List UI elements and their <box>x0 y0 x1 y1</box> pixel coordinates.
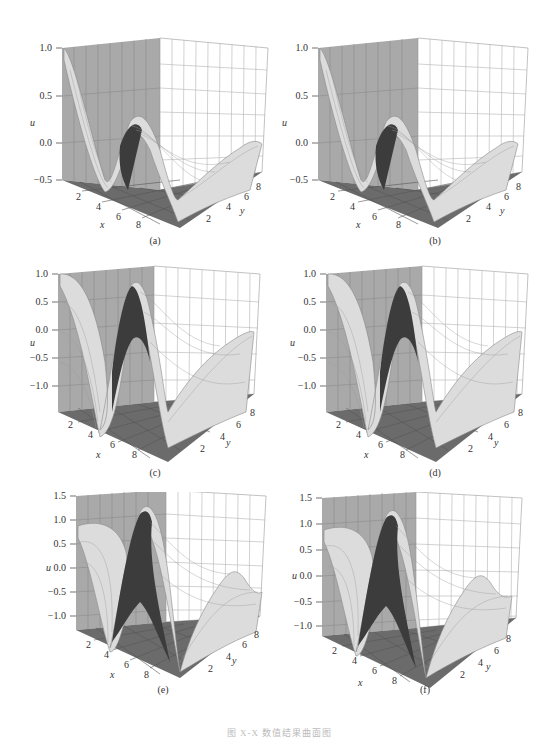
svg-text:4: 4 <box>350 201 355 212</box>
svg-text:6: 6 <box>236 419 241 430</box>
subfigure-label-a: (a) <box>140 235 170 246</box>
svg-text:6: 6 <box>372 211 377 222</box>
svg-text:0.5: 0.5 <box>36 296 49 307</box>
svg-text:2: 2 <box>86 639 91 650</box>
svg-text:2: 2 <box>208 663 213 674</box>
svg-text:1.0: 1.0 <box>40 42 53 53</box>
svg-text:0.5: 0.5 <box>300 544 313 555</box>
svg-text:6: 6 <box>494 645 499 656</box>
svg-text:6: 6 <box>378 439 383 450</box>
svg-text:y: y <box>231 655 237 666</box>
svg-text:0.0: 0.0 <box>54 562 67 573</box>
svg-text:4: 4 <box>356 429 361 440</box>
svg-text:0.0: 0.0 <box>304 324 317 335</box>
svg-text:4: 4 <box>220 431 225 442</box>
svg-text:u: u <box>292 570 297 581</box>
svg-text:0.0: 0.0 <box>296 137 309 148</box>
svg-text:x: x <box>357 677 363 688</box>
svg-text:−0.5: −0.5 <box>48 586 66 597</box>
panel-d: 1.0 0.5 0.0 −0.5 −1.0 u 2 4 6 8 x 2 4 6 … <box>280 262 559 497</box>
svg-text:−1.0: −1.0 <box>298 380 316 391</box>
svg-text:2: 2 <box>336 419 341 430</box>
svg-text:1.0: 1.0 <box>300 518 313 529</box>
svg-text:0.5: 0.5 <box>296 90 309 101</box>
svg-text:6: 6 <box>504 191 509 202</box>
svg-text:2: 2 <box>330 191 335 202</box>
figure-caption: 图 X-X 数值结果曲面图 <box>0 726 559 738</box>
svg-text:u: u <box>30 337 35 348</box>
svg-text:2: 2 <box>206 213 211 224</box>
svg-text:1.0: 1.0 <box>304 268 317 279</box>
svg-text:y: y <box>225 437 231 448</box>
panel-b: 1.0 0.5 0.0 −0.5 u 2 4 6 8 x 2 4 6 8 y (… <box>280 30 559 265</box>
panel-c: 1.0 0.5 0.0 −0.5 −1.0 u 2 4 6 8 x 2 4 6 … <box>0 262 280 497</box>
svg-text:8: 8 <box>256 181 261 192</box>
svg-text:2: 2 <box>332 645 337 656</box>
panel-e: 1.5 1.0 0.5 0.0 −0.5 −1.0 u 2 4 6 8 x 2 … <box>0 492 280 727</box>
subfigure-label-c: (c) <box>140 467 170 478</box>
svg-text:4: 4 <box>96 201 101 212</box>
svg-text:4: 4 <box>226 651 231 662</box>
svg-text:−1.0: −1.0 <box>294 620 312 631</box>
svg-text:8: 8 <box>136 219 141 230</box>
svg-text:2: 2 <box>68 419 73 430</box>
svg-text:8: 8 <box>506 633 511 644</box>
svg-text:8: 8 <box>144 669 149 680</box>
panel-a: 1.0 0.5 0.0 −0.5 u 2 4 6 8 x 2 4 6 8 y (… <box>0 30 280 265</box>
svg-text:4: 4 <box>478 657 483 668</box>
subfigure-label-f: (f) <box>410 684 440 695</box>
svg-text:y: y <box>485 661 491 672</box>
panel-f: 1.5 1.0 0.5 0.0 −0.5 −1.0 u 2 4 6 8 x 2 … <box>280 492 559 727</box>
svg-text:u: u <box>46 562 51 573</box>
svg-text:1.0: 1.0 <box>54 514 67 525</box>
surface-plot-c: 1.0 0.5 0.0 −0.5 −1.0 u 2 4 6 8 x 2 4 6 … <box>0 262 280 462</box>
svg-text:8: 8 <box>400 449 405 460</box>
svg-text:4: 4 <box>352 655 357 666</box>
svg-text:x: x <box>95 449 101 460</box>
svg-text:8: 8 <box>396 219 401 230</box>
svg-text:4: 4 <box>88 429 93 440</box>
svg-text:8: 8 <box>132 449 137 460</box>
subfigure-label-e: (e) <box>148 684 178 695</box>
svg-text:4: 4 <box>104 649 109 660</box>
svg-text:4: 4 <box>488 431 493 442</box>
svg-text:2: 2 <box>460 669 465 680</box>
svg-text:0.5: 0.5 <box>304 296 317 307</box>
svg-text:6: 6 <box>372 665 377 676</box>
surface-plot-b: 1.0 0.5 0.0 −0.5 u 2 4 6 8 x 2 4 6 8 y <box>280 30 559 230</box>
svg-text:2: 2 <box>466 213 471 224</box>
svg-text:1.5: 1.5 <box>300 492 313 503</box>
svg-text:x: x <box>363 449 369 460</box>
svg-text:8: 8 <box>250 407 255 418</box>
svg-text:0.0: 0.0 <box>40 137 53 148</box>
svg-text:1.5: 1.5 <box>54 492 67 501</box>
subfigure-label-d: (d) <box>420 467 450 478</box>
svg-text:8: 8 <box>516 181 521 192</box>
svg-text:6: 6 <box>504 419 509 430</box>
svg-text:−0.5: −0.5 <box>294 596 312 607</box>
svg-text:6: 6 <box>110 439 115 450</box>
svg-text:x: x <box>109 669 115 680</box>
svg-text:−1.0: −1.0 <box>48 610 66 621</box>
svg-text:6: 6 <box>242 639 247 650</box>
svg-text:−0.5: −0.5 <box>30 352 48 363</box>
svg-text:u: u <box>30 117 35 128</box>
svg-text:6: 6 <box>124 659 129 670</box>
svg-text:u: u <box>282 117 287 128</box>
svg-text:2: 2 <box>200 443 205 454</box>
svg-text:−0.5: −0.5 <box>298 352 316 363</box>
svg-text:0.5: 0.5 <box>54 538 67 549</box>
svg-text:y: y <box>499 205 505 216</box>
surface-plot-d: 1.0 0.5 0.0 −0.5 −1.0 u 2 4 6 8 x 2 4 6 … <box>280 262 559 462</box>
svg-text:0.0: 0.0 <box>36 324 49 335</box>
svg-text:8: 8 <box>254 629 259 640</box>
svg-text:1.0: 1.0 <box>296 42 309 53</box>
svg-text:−0.5: −0.5 <box>290 174 308 185</box>
svg-text:1.0: 1.0 <box>36 268 49 279</box>
svg-text:−1.0: −1.0 <box>30 380 48 391</box>
svg-text:x: x <box>99 219 105 230</box>
svg-text:y: y <box>493 437 499 448</box>
svg-text:y: y <box>239 205 245 216</box>
svg-text:x: x <box>355 219 361 230</box>
svg-text:0.0: 0.0 <box>300 570 313 581</box>
